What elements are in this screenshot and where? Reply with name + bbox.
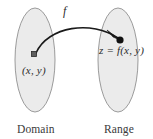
range-point-label: z = f(x, y): [99, 45, 144, 56]
range-caption: Range: [104, 124, 134, 136]
function-mapping-diagram: f (x, y) z = f(x, y) Domain Range: [0, 0, 153, 139]
function-label: f: [63, 5, 67, 17]
domain-caption: Domain: [17, 124, 55, 136]
domain-ellipse: [15, 8, 55, 112]
range-ellipse: [98, 8, 138, 112]
range-point-marker: [116, 36, 123, 43]
domain-point-label: (x, y): [22, 65, 46, 76]
domain-point-marker: [32, 52, 37, 57]
